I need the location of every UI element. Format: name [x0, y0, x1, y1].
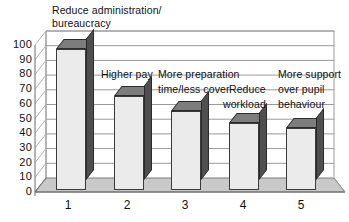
y-tick-40: 40: [19, 127, 32, 138]
x-tick-4: 4: [233, 199, 253, 212]
y-tick-30: 30: [19, 142, 32, 153]
x-axis: 1 2 3 4 5: [0, 199, 349, 219]
bar-2-side: [144, 76, 152, 180]
annotation-bar-5-line-3: behaviour: [278, 98, 325, 111]
bar-1-side: [86, 29, 94, 180]
y-tick-10: 10: [19, 171, 32, 182]
annotation-bar-1-line-2: bureaucracy: [52, 17, 111, 30]
annotation-bar-2-line-1: Higher pay: [101, 68, 153, 81]
bar-4-front: [229, 123, 259, 190]
annotation-bar-4-line-1: Reduce: [229, 83, 266, 96]
bar-5: [286, 118, 316, 190]
x-tick-5: 5: [291, 199, 311, 212]
y-tick-0: 0: [26, 186, 32, 197]
bar-1: [56, 39, 86, 190]
x-tick-3: 3: [175, 199, 195, 212]
bar-5-side: [316, 108, 324, 180]
y-tick-90: 90: [19, 54, 32, 65]
y-tick-70: 70: [19, 83, 32, 94]
y-tick-50: 50: [19, 113, 32, 124]
bar-3-side: [201, 91, 209, 180]
y-tick-100: 100: [13, 39, 32, 50]
bar-3: [171, 101, 201, 190]
annotation-bar-4-line-2: workload: [223, 98, 266, 111]
bar-2: [114, 86, 144, 190]
y-tick-60: 60: [19, 98, 32, 109]
bar-3-front: [171, 111, 201, 190]
bar-2-front: [114, 96, 144, 190]
bar-chart: 100 90 80 70 60 50 40 30 20 10 0 1 2 3 4…: [0, 0, 349, 222]
bar-1-front: [56, 49, 86, 190]
x-tick-1: 1: [58, 199, 78, 212]
annotation-bar-5-line-1: More support: [278, 68, 341, 81]
y-tick-20: 20: [19, 157, 32, 168]
y-axis: 100 90 80 70 60 50 40 30 20 10 0: [2, 0, 32, 222]
x-tick-2: 2: [117, 199, 137, 212]
annotation-bar-3-line-1: More preparation: [158, 68, 240, 81]
bar-5-front: [286, 128, 316, 190]
bar-4: [229, 113, 259, 190]
annotation-bar-3-line-2: time/less cover: [158, 83, 230, 96]
annotation-bar-5-line-2: over pupil: [278, 83, 325, 96]
bar-4-side: [259, 103, 267, 180]
annotation-bar-1-line-1: Reduce administration/: [52, 4, 162, 17]
y-tick-80: 80: [19, 68, 32, 79]
